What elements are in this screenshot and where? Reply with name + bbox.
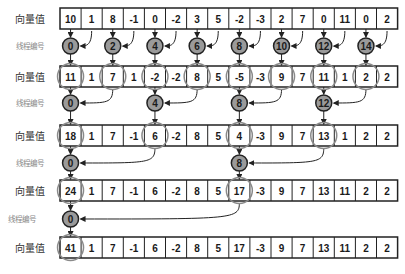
vector-cell: -5	[235, 72, 244, 83]
thread-id: 0	[68, 98, 74, 109]
vector-cell: 7	[110, 186, 116, 197]
vector-cell: 8	[194, 186, 200, 197]
vector-cell: -2	[172, 14, 181, 25]
thread-step: 02468101214	[63, 38, 374, 54]
vector-cell: 2	[384, 131, 390, 142]
curved-arrow	[334, 89, 366, 103]
vector-cell: 13	[318, 243, 330, 254]
vector-cell: -1	[129, 14, 138, 25]
vector-cell: 2	[384, 243, 390, 254]
curved-arrow	[81, 148, 155, 163]
vector-cell: 10	[65, 14, 77, 25]
thread-id: 8	[237, 98, 243, 109]
vector-cell: 2	[363, 243, 369, 254]
curved-arrow	[81, 31, 92, 46]
vector-cell: 0	[321, 14, 327, 25]
vector-value-label: 向量值	[15, 242, 45, 254]
vector-cell: 11	[318, 72, 329, 83]
vector-cell: 0	[363, 14, 369, 25]
vector-cell: 41	[65, 243, 77, 254]
vector-row: 4117-16-28517-397131122	[58, 235, 398, 261]
thread-id: 8	[237, 41, 243, 52]
thread-id: 0	[68, 158, 74, 169]
vector-cell: 8	[194, 243, 200, 254]
curved-arrow	[376, 31, 387, 46]
vector-cell: 1	[342, 131, 348, 142]
curved-arrow	[165, 89, 197, 103]
vector-cell: 8	[110, 14, 116, 25]
vector-cell: 11	[340, 186, 351, 197]
thread-id-label: 线程编号	[16, 41, 44, 51]
vector-cell: -1	[129, 186, 138, 197]
vector-cell: 2	[384, 14, 390, 25]
vector-cell: 18	[65, 131, 77, 142]
curved-arrow	[207, 31, 218, 46]
thread-id: 2	[110, 41, 116, 52]
vector-cell: 0	[152, 14, 158, 25]
vector-cell: 1	[89, 186, 95, 197]
curved-arrow	[292, 31, 303, 46]
vector-cell: 2	[279, 14, 285, 25]
vector-cell: 6	[152, 243, 158, 254]
vector-cell: 5	[215, 72, 221, 83]
vector-value-label: 向量值	[15, 130, 45, 142]
vector-cell: -3	[256, 72, 265, 83]
vector-cell: 3	[194, 14, 200, 25]
thread-id: 14	[360, 41, 372, 52]
thread-id-label: 线程编号	[8, 214, 36, 224]
vector-cell: 7	[300, 14, 306, 25]
vector-cell: -2	[172, 72, 181, 83]
vector-cell: 8	[194, 72, 200, 83]
thread-id: 0	[68, 214, 74, 225]
vector-row: 1817-16-2854-39713122	[58, 123, 398, 149]
vector-value-label: 向量值	[15, 185, 45, 197]
thread-id: 8	[237, 158, 243, 169]
vector-cell: 9	[279, 72, 285, 83]
vector-cell: 9	[279, 243, 285, 254]
curved-arrow	[81, 203, 240, 219]
thread-id: 6	[194, 41, 200, 52]
curved-arrow	[123, 31, 134, 46]
vector-cell: 6	[152, 131, 158, 142]
vector-cell: 1	[131, 72, 137, 83]
vector-cell: -2	[172, 186, 181, 197]
thread-id: 0	[68, 41, 74, 52]
thread-id-label: 线程编号	[16, 98, 44, 108]
vector-value-label: 向量值	[15, 13, 45, 25]
vector-cell: 13	[318, 186, 330, 197]
vector-cell: 5	[215, 14, 221, 25]
vector-cell: 9	[279, 131, 285, 142]
vector-cell: -3	[256, 131, 265, 142]
vector-cell: 1	[89, 14, 95, 25]
row-labels: 向量值向量值向量值向量值向量值线程编号线程编号线程编号线程编号	[8, 13, 45, 254]
vector-cell: 2	[363, 131, 369, 142]
curved-arrow	[249, 31, 260, 46]
curved-arrow	[165, 31, 176, 46]
vector-cell: 17	[234, 186, 246, 197]
curved-arrow	[249, 89, 281, 103]
vector-cell: 7	[110, 243, 116, 254]
vector-row: 2417-16-28517-397131122	[58, 178, 398, 204]
vector-cell: 7	[300, 131, 306, 142]
vector-cell: 9	[279, 186, 285, 197]
vector-cell: 7	[300, 243, 306, 254]
thread-id: 12	[318, 41, 330, 52]
parallel-reduction-diagram: 1018-10-235-2-3270110211171-2-285-5-3971…	[0, 0, 405, 274]
vector-cell: 7	[300, 72, 306, 83]
vector-cell: 2	[363, 72, 369, 83]
vector-cell: 17	[234, 243, 246, 254]
thread-step: 0	[63, 211, 79, 227]
vector-cell: 11	[340, 243, 351, 254]
vector-cell: 24	[65, 186, 77, 197]
vector-cell: 5	[215, 186, 221, 197]
thread-id-label: 线程编号	[16, 158, 44, 168]
vector-cell: -3	[256, 14, 265, 25]
vector-value-label: 向量值	[15, 71, 45, 83]
vector-cell: -2	[235, 14, 244, 25]
vector-cell: 11	[65, 72, 76, 83]
vector-cell: 7	[110, 131, 116, 142]
thread-id: 10	[276, 41, 288, 52]
thread-id: 12	[318, 98, 330, 109]
thread-step: 04812	[63, 95, 332, 111]
vector-cell: 2	[384, 186, 390, 197]
